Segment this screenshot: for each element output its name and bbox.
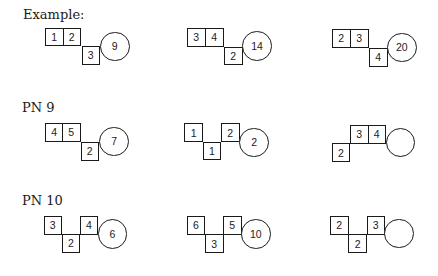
result-circle: 14 bbox=[242, 31, 272, 61]
number-square: 1 bbox=[203, 142, 222, 161]
number-square: 5 bbox=[223, 216, 242, 235]
section-label: PN 10 bbox=[22, 194, 63, 207]
number-square: 2 bbox=[330, 216, 349, 235]
number-square: 4 bbox=[368, 125, 387, 144]
puzzle-diagram: Example:12393421423420PN 945271122234PN … bbox=[0, 0, 438, 276]
number-square: 2 bbox=[221, 123, 240, 142]
number-square: 2 bbox=[332, 29, 351, 48]
number-square: 3 bbox=[82, 46, 101, 65]
number-square: 3 bbox=[350, 29, 369, 48]
result-circle: 6 bbox=[98, 219, 128, 249]
number-square: 2 bbox=[332, 143, 351, 162]
number-square: 2 bbox=[81, 142, 100, 161]
answer-circle-blank bbox=[384, 219, 414, 249]
section-label: PN 9 bbox=[22, 101, 55, 114]
number-square: 3 bbox=[350, 125, 369, 144]
number-square: 4 bbox=[80, 216, 99, 235]
number-square: 3 bbox=[367, 216, 386, 235]
number-square: 4 bbox=[369, 48, 388, 67]
result-circle: 2 bbox=[239, 128, 269, 158]
result-circle: 9 bbox=[100, 32, 130, 62]
number-square: 2 bbox=[348, 234, 367, 253]
answer-circle-blank bbox=[386, 128, 416, 158]
number-square: 2 bbox=[62, 234, 81, 253]
number-square: 4 bbox=[45, 123, 64, 142]
number-square: 6 bbox=[187, 216, 206, 235]
number-square: 4 bbox=[205, 28, 224, 47]
number-square: 5 bbox=[62, 123, 81, 142]
number-square: 2 bbox=[224, 47, 243, 66]
number-square: 3 bbox=[187, 28, 206, 47]
number-square: 1 bbox=[45, 28, 64, 47]
section-label: Example: bbox=[23, 8, 84, 21]
number-square: 3 bbox=[44, 216, 63, 235]
number-square: 3 bbox=[205, 234, 224, 253]
result-circle: 7 bbox=[99, 127, 129, 157]
result-circle: 10 bbox=[241, 219, 271, 249]
number-square: 1 bbox=[184, 123, 203, 142]
number-square: 2 bbox=[63, 28, 82, 47]
result-circle: 20 bbox=[387, 33, 417, 63]
